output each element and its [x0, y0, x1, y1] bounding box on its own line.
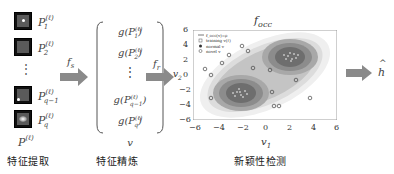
- legend-text-novel: novel v: [206, 49, 221, 54]
- y-axis-label: v2: [173, 69, 182, 81]
- xtick: 4: [311, 123, 316, 132]
- x-axis-label: v1: [261, 136, 271, 150]
- xtick: −6: [189, 123, 201, 132]
- vector-item-1: g(P(ℓ)1): [100, 26, 160, 39]
- patch-1-label: P(ℓ)1: [38, 16, 58, 31]
- ytick: 2: [183, 55, 188, 64]
- patch-1: [14, 12, 32, 30]
- xtick: 6: [334, 123, 339, 132]
- patch-q: [14, 110, 32, 128]
- arrow-icon: [346, 65, 372, 81]
- legend-text-boundary: f_occ(v)=ρ: [206, 33, 228, 38]
- feature-refinement-caption: 特征精炼: [96, 153, 138, 168]
- vector-item-2: g(P(ℓ)2): [100, 47, 160, 60]
- xtick: 2: [287, 123, 292, 132]
- patch-2-label: P(ℓ)2: [38, 42, 58, 57]
- patch-2: [14, 38, 32, 56]
- xtick: 0: [263, 123, 268, 132]
- xtick: −2: [237, 123, 249, 132]
- patch-q-1-label: P(ℓ)q−1: [38, 90, 69, 105]
- ellipsis: ⋮: [20, 62, 32, 76]
- arrow-icon: [60, 68, 88, 86]
- output-label: ^ h: [378, 66, 385, 79]
- vector-label: v: [100, 138, 160, 148]
- ytick: 6: [183, 25, 188, 34]
- legend-text-training: training v(ℓ): [206, 38, 231, 43]
- vector-item-q: g(P(ℓ)q): [100, 115, 160, 128]
- patch-q-1: [14, 86, 32, 104]
- plot-title: focc: [254, 14, 272, 29]
- ytick: −2: [179, 85, 191, 94]
- ytick: 0: [183, 70, 188, 79]
- vector-item-q-1: g(P(ℓ)q−1): [100, 94, 160, 107]
- xtick: −4: [213, 123, 225, 132]
- arrow-icon: [146, 68, 174, 86]
- density-plot: f_occ(v)=ρ training v(ℓ) normal v novel …: [193, 30, 337, 120]
- patch-set-label: P(ℓ): [18, 136, 34, 148]
- patch-q-label: P(ℓ)q: [38, 114, 58, 129]
- ytick: 4: [183, 40, 188, 49]
- novelty-detection-caption: 新颖性检测: [234, 153, 287, 168]
- feature-extraction-caption: 特征提取: [7, 153, 49, 168]
- ytick: −4: [179, 100, 191, 109]
